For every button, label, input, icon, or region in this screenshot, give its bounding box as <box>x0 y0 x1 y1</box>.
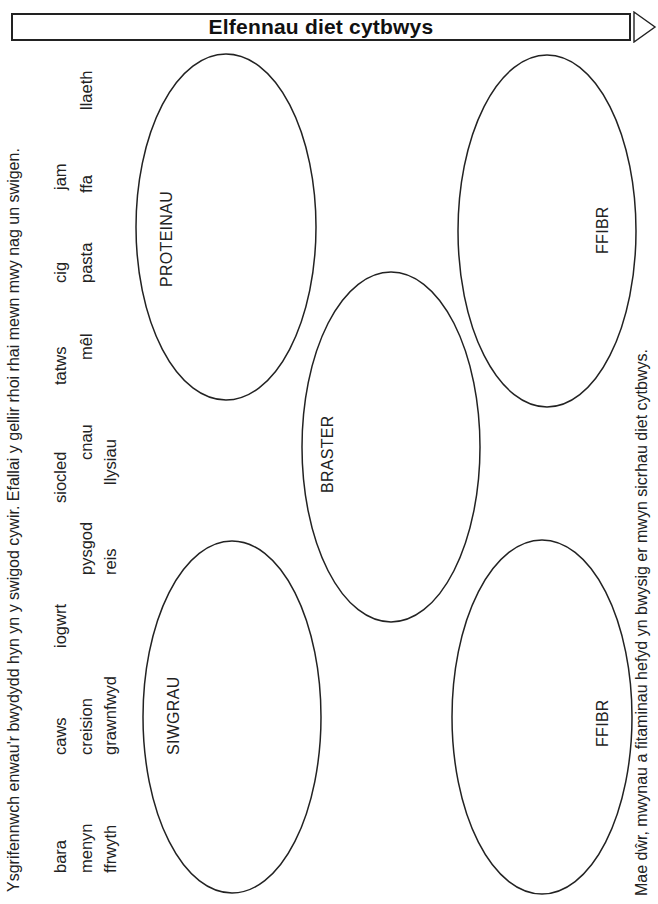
bubble-label-proteinau: PROTEINAU <box>157 191 177 287</box>
bubble-label-ffibr-bottom: FFIBR <box>593 699 613 747</box>
bubble-label-braster: BRASTER <box>318 415 338 493</box>
bubble-label-siwgrau: SIWGRAU <box>164 676 184 755</box>
footer-note: Mae dŵr, mwynau a fitaminau hefyd yn bwy… <box>632 349 652 896</box>
bubble-label-ffibr-top: FFIBR <box>593 206 613 254</box>
